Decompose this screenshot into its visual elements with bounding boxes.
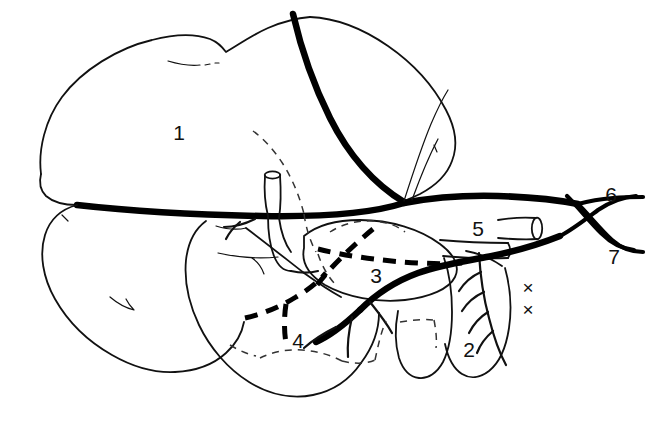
hidden-contour-right-pocket [375,321,386,360]
cystic-artery-trunk [479,253,506,365]
cystic-artery-branch-4 [477,331,493,353]
label-6: 6 [605,183,617,206]
duct-stump-lower-body-right [279,218,291,252]
label-5: 5 [472,217,484,240]
gallbladder-right-wall [445,268,510,377]
segment-five-strip-top [440,240,508,243]
lower-left-lobe-outline [42,205,175,372]
x-mark-lower: × [522,299,533,320]
anatomical-figure: 1 2 3 4 5 6 7 × × [0,0,651,434]
duct-stump-right-wall [279,175,281,218]
hidden-contour-gb-bed [400,320,434,322]
duct-stump-lumen-ellipse [265,171,281,178]
hidden-contour-gb-bed-stem [434,320,436,348]
upper-left-lobe-outline [40,17,310,174]
cystic-artery-branch-3 [469,312,488,333]
lower-left-lobe-tick [62,215,68,221]
hidden-contour-caudate-arc [304,214,316,252]
quadrate-lobe-ridge [218,253,278,258]
inferior-band-branch-right [370,302,392,333]
hilar-band-main [77,203,404,216]
label-4: 4 [292,329,304,352]
lower-left-lobe-notch [110,297,134,310]
right-lobe-fold-a [404,90,448,201]
right-duct-cylinder-lumen [532,218,542,240]
cystic-artery-branch-1 [459,272,481,291]
label-2: 2 [463,338,475,361]
hidden-contour-lower-basin-right [342,360,375,363]
duct-stump-left-wall [265,176,268,216]
label-1: 1 [173,121,185,144]
inferior-right-band-inner [316,310,360,342]
upper-right-lobe-outline [310,17,455,201]
x-mark-upper: × [522,277,533,298]
left-lobe-crease-dots [205,63,219,65]
left-lobe-crease [168,61,200,65]
label-3: 3 [370,264,382,287]
left-lobe-left-edge [40,174,77,205]
falciform-ligament [293,14,404,202]
right-lobe-fold-tick [434,145,437,152]
label-7: 7 [608,245,620,268]
right-duct-cylinder-top [498,218,536,220]
cystic-artery-branch-2 [462,292,484,311]
hilar-spur-left-2 [226,222,240,239]
diagram-canvas: 1 2 3 4 5 6 7 × × [0,0,651,434]
hilar-band-right-extension [404,196,578,204]
quadrate-lobe-ridge-branch [252,258,264,274]
hidden-contour-left-lower [230,345,256,356]
segment-boundary-lower-descend [285,304,287,343]
right-duct-cylinder-bottom [498,238,537,239]
hilar-spur-stump-base [291,271,318,273]
